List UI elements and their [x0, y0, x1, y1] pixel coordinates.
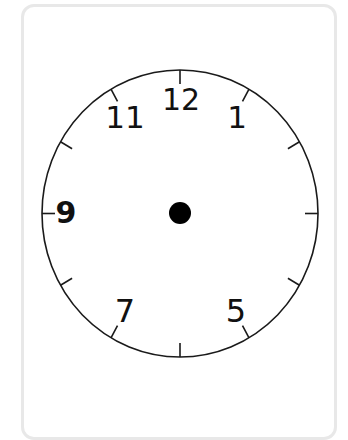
tick-2 [288, 142, 300, 149]
numeral-7: 7 [115, 292, 135, 330]
numeral-5: 5 [226, 292, 246, 330]
tick-8 [61, 278, 73, 285]
tick-4 [288, 278, 300, 285]
numeral-9: 9 [56, 195, 77, 230]
numeral-1: 1 [227, 99, 247, 135]
tick-10 [61, 142, 73, 149]
center-dot [169, 202, 191, 224]
numeral-11: 11 [105, 99, 144, 135]
numeral-12: 12 [162, 82, 200, 117]
